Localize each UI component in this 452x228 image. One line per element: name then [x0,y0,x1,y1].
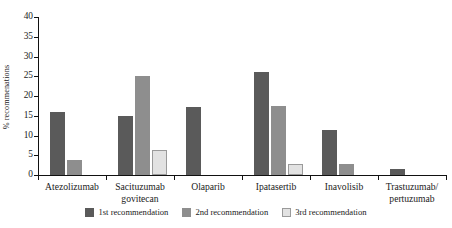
bar [118,116,133,175]
chart-legend: 1st recommendation2nd recommendation3rd … [0,207,452,217]
bar [288,164,303,175]
bar [322,130,337,175]
x-tick-mark [446,175,447,180]
bar-group [38,17,106,175]
bar-group [378,17,446,175]
bar-group [310,17,378,175]
x-category-label-line: Trastuzumab/ [368,181,452,193]
plot-area: 0510152025303540 [38,17,446,175]
y-tick-label: 5 [28,151,33,160]
bar [339,164,354,175]
bar [271,106,286,175]
y-tick-label: 30 [24,52,33,61]
bar [254,72,269,175]
bar [186,107,201,175]
x-tick-mark [106,175,107,180]
x-tick-mark [174,175,175,180]
legend-item[interactable]: 2nd recommendation [182,207,268,217]
y-tick-label: 20 [24,91,33,100]
x-tick-mark [378,175,379,180]
legend-label: 2nd recommendation [195,207,268,217]
bar [390,169,405,175]
bar [152,150,167,175]
legend-swatch-icon [182,208,191,217]
y-tick-label: 10 [24,131,33,140]
bar [67,160,82,175]
bar [135,76,150,175]
bar-group [174,17,242,175]
x-category-label-line: pertuzumab [368,193,452,205]
bar-chart: % recommenations 0510152025303540 Atezol… [0,0,452,228]
bar-group [106,17,174,175]
bar-group [242,17,310,175]
y-tick-label: 25 [24,72,33,81]
legend-swatch-icon [85,208,94,217]
x-tick-mark [242,175,243,180]
legend-swatch-icon [282,208,291,217]
y-tick-label: 15 [24,111,33,120]
y-tick-label: 35 [24,32,33,41]
x-category-label: Trastuzumab/pertuzumab [368,181,452,204]
x-tick-mark [310,175,311,180]
y-tick-label: 0 [28,170,33,179]
legend-item[interactable]: 1st recommendation [85,207,168,217]
y-axis-title: % recommenations [2,32,11,162]
legend-label: 1st recommendation [98,207,168,217]
y-tick-label: 40 [24,12,33,21]
legend-item[interactable]: 3rd recommendation [282,207,366,217]
bar [50,112,65,175]
x-tick-mark [38,175,39,180]
x-category-label-line: govitecan [96,193,184,205]
legend-label: 3rd recommendation [295,207,366,217]
